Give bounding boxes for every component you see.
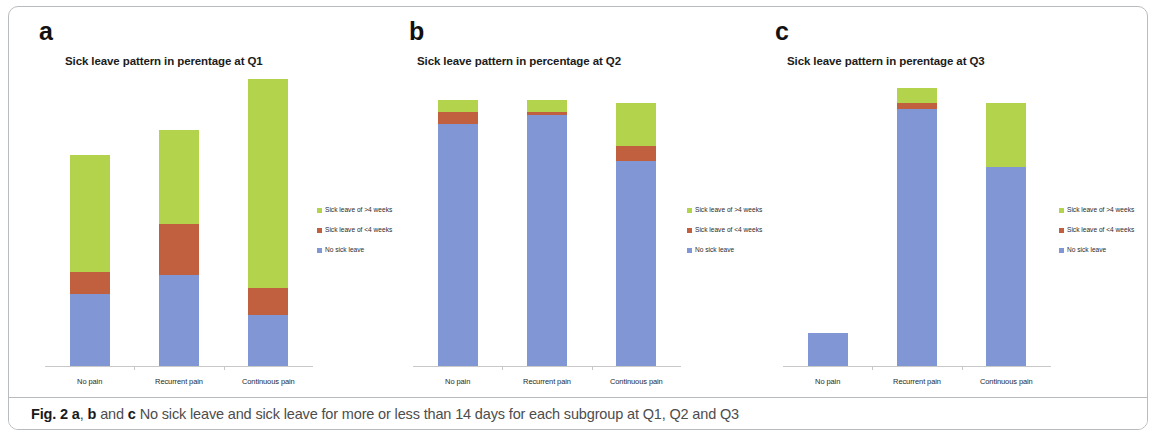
caption-label-c: c bbox=[128, 406, 136, 422]
stacked-bar[interactable] bbox=[248, 79, 288, 366]
panel-c-axis bbox=[783, 366, 1051, 367]
legend-swatch-blue bbox=[687, 248, 692, 253]
legend-swatch-green bbox=[687, 208, 692, 213]
legend-item: Sick leave of >4 weeks bbox=[1059, 207, 1134, 214]
panel-a-legend: Sick leave of >4 weeksSick leave of <4 w… bbox=[317, 207, 392, 267]
stacked-bar[interactable] bbox=[616, 103, 656, 366]
panel-c-legend: Sick leave of >4 weeksSick leave of <4 w… bbox=[1059, 207, 1134, 267]
panel-b-axis bbox=[413, 366, 681, 367]
bar-segment-no-sick-leave bbox=[159, 275, 199, 366]
bar-group: No pain bbox=[45, 56, 134, 366]
category-label: Recurrent pain bbox=[523, 377, 571, 386]
axis-tick bbox=[224, 366, 225, 370]
category-label: No pain bbox=[445, 377, 470, 386]
panel-b-letter: b bbox=[409, 19, 424, 44]
legend-label: Sick leave of <4 weeks bbox=[1067, 227, 1134, 234]
bar-group: No pain bbox=[413, 56, 502, 366]
panel-b-plot: No painRecurrent painContinuous pain bbox=[413, 57, 681, 367]
legend-label: No sick leave bbox=[325, 247, 364, 254]
legend-swatch-red bbox=[1059, 228, 1064, 233]
bar-segment-no-sick-leave bbox=[70, 294, 110, 366]
bar-segment-no-sick-leave bbox=[248, 315, 288, 366]
bar-segment-sick-leave-of-4-weeks bbox=[70, 155, 110, 273]
bar-segment-no-sick-leave bbox=[897, 109, 937, 366]
caption-body: No sick leave and sick leave for more or… bbox=[140, 406, 739, 422]
bar-group: Recurrent pain bbox=[134, 56, 223, 366]
legend-item: Sick leave of <4 weeks bbox=[317, 227, 392, 234]
panel-a-letter: a bbox=[39, 19, 52, 44]
panel-c: c Sick leave pattern in perentage at Q3 … bbox=[763, 7, 1145, 399]
bar-segment-no-sick-leave bbox=[808, 333, 848, 366]
bar-group: No pain bbox=[783, 56, 872, 366]
bar-segment-sick-leave-of-4-weeks bbox=[70, 272, 110, 293]
category-label: No pain bbox=[815, 377, 840, 386]
legend-label: Sick leave of <4 weeks bbox=[695, 227, 762, 234]
legend-swatch-blue bbox=[1059, 248, 1064, 253]
caption-figure-number: Fig. 2 bbox=[31, 406, 68, 422]
axis-tick bbox=[962, 366, 963, 370]
legend-item: No sick leave bbox=[317, 247, 392, 254]
bar-segment-no-sick-leave bbox=[986, 167, 1026, 366]
axis-tick bbox=[502, 366, 503, 370]
panel-a-axis bbox=[45, 366, 313, 367]
bar-segment-sick-leave-of-4-weeks bbox=[986, 103, 1026, 166]
legend-label: No sick leave bbox=[1067, 247, 1106, 254]
category-label: Recurrent pain bbox=[155, 377, 203, 386]
figure-caption: Fig. 2 a, b and c No sick leave and sick… bbox=[9, 406, 739, 422]
legend-swatch-green bbox=[1059, 208, 1064, 213]
legend-swatch-red bbox=[317, 228, 322, 233]
stacked-bar[interactable] bbox=[808, 333, 848, 366]
bar-segment-sick-leave-of-4-weeks bbox=[616, 103, 656, 145]
stacked-bar[interactable] bbox=[159, 130, 199, 366]
figure-frame: a Sick leave pattern in perentage at Q1 … bbox=[8, 6, 1148, 430]
category-label: Continuous pain bbox=[980, 377, 1033, 386]
legend-item: Sick leave of <4 weeks bbox=[687, 227, 762, 234]
legend-item: No sick leave bbox=[687, 247, 762, 254]
bar-group: Continuous pain bbox=[592, 56, 681, 366]
panel-c-letter: c bbox=[775, 19, 788, 44]
stacked-bar[interactable] bbox=[438, 100, 478, 366]
bar-segment-sick-leave-of-4-weeks bbox=[248, 288, 288, 315]
bar-segment-no-sick-leave bbox=[438, 124, 478, 366]
stacked-bar[interactable] bbox=[70, 155, 110, 366]
axis-tick bbox=[134, 366, 135, 370]
bar-segment-sick-leave-of-4-weeks bbox=[438, 112, 478, 124]
bar-segment-sick-leave-of-4-weeks bbox=[438, 100, 478, 112]
bar-group: Continuous pain bbox=[224, 56, 313, 366]
axis-tick bbox=[592, 366, 593, 370]
category-label: Recurrent pain bbox=[893, 377, 941, 386]
bar-segment-no-sick-leave bbox=[527, 115, 567, 366]
caption-and: and bbox=[100, 406, 124, 422]
axis-tick bbox=[872, 366, 873, 370]
bar-segment-sick-leave-of-4-weeks bbox=[159, 130, 199, 224]
bar-segment-sick-leave-of-4-weeks bbox=[616, 146, 656, 161]
legend-swatch-green bbox=[317, 208, 322, 213]
panel-a: a Sick leave pattern in perentage at Q1 … bbox=[17, 7, 399, 399]
panel-b-legend: Sick leave of >4 weeksSick leave of <4 w… bbox=[687, 207, 762, 267]
legend-swatch-red bbox=[687, 228, 692, 233]
legend-label: No sick leave bbox=[695, 247, 734, 254]
caption-label-b: b bbox=[88, 406, 97, 422]
bar-segment-sick-leave-of-4-weeks bbox=[527, 100, 567, 112]
legend-item: Sick leave of >4 weeks bbox=[317, 207, 392, 214]
category-label: Continuous pain bbox=[610, 377, 663, 386]
stacked-bar[interactable] bbox=[897, 88, 937, 366]
legend-item: Sick leave of <4 weeks bbox=[1059, 227, 1134, 234]
bar-segment-sick-leave-of-4-weeks bbox=[159, 224, 199, 275]
legend-item: Sick leave of >4 weeks bbox=[687, 207, 762, 214]
caption-comma: , bbox=[80, 406, 84, 422]
bar-segment-sick-leave-of-4-weeks bbox=[897, 88, 937, 103]
panel-c-plot: No painRecurrent painContinuous pain bbox=[783, 57, 1051, 367]
stacked-bar[interactable] bbox=[527, 100, 567, 366]
bar-group: Recurrent pain bbox=[872, 56, 961, 366]
bar-segment-sick-leave-of-4-weeks bbox=[248, 79, 288, 287]
stacked-bar[interactable] bbox=[986, 103, 1026, 366]
caption-label-a: a bbox=[72, 406, 80, 422]
bar-group: Recurrent pain bbox=[502, 56, 591, 366]
legend-label: Sick leave of <4 weeks bbox=[325, 227, 392, 234]
category-label: Continuous pain bbox=[242, 377, 295, 386]
category-label: No pain bbox=[77, 377, 102, 386]
bar-segment-no-sick-leave bbox=[616, 161, 656, 366]
panel-b: b Sick leave pattern in percentage at Q2… bbox=[395, 7, 767, 399]
legend-swatch-blue bbox=[317, 248, 322, 253]
